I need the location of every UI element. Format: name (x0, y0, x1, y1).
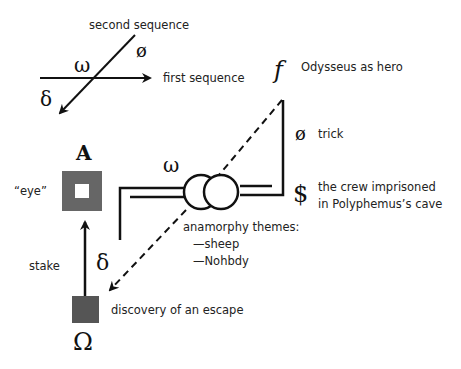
second-sequence-label: second sequence (89, 18, 189, 32)
crew-label-line1: the crew imprisoned (318, 180, 436, 194)
f-symbol: f (272, 56, 287, 84)
legend: second sequence first sequence ω δ ø (40, 18, 245, 113)
anamorphy-item-sheep: —sheep (193, 237, 239, 251)
right-circle (204, 175, 238, 209)
center-labels: ω anamorphy themes: —sheep —Nohbdy (163, 153, 299, 268)
delta-symbol: δ (40, 87, 52, 111)
trick-label: trick (318, 127, 344, 141)
null-symbol-right: ø (295, 123, 306, 144)
first-sequence-label: first sequence (163, 71, 245, 85)
Omega-symbol: Ω (73, 328, 93, 356)
omega-small-center: ω (163, 153, 179, 177)
escape-square (72, 296, 99, 323)
dashed-line-upper (219, 100, 282, 175)
lacanian-diagram: second sequence first sequence ω δ ø f O… (0, 0, 461, 369)
escape-label: discovery of an escape (111, 303, 243, 317)
omega-small-symbol: ω (74, 53, 90, 77)
f-label: Odysseus as hero (301, 60, 403, 74)
null-symbol: ø (136, 40, 147, 61)
anamorphy-item-nohbdy: —Nohbdy (193, 254, 249, 268)
dashed-arrow-to-escape (110, 210, 186, 290)
stake-label: stake (29, 259, 60, 273)
right-structure: f Odysseus as hero ø trick $ the crew im… (110, 56, 442, 290)
crew-label-line2: in Polyphemus’s cave (318, 197, 442, 211)
A-symbol: A (75, 141, 92, 165)
second-sequence-arrow (60, 35, 135, 113)
eye-label: “eye” (14, 184, 47, 198)
eye-square-hole (75, 184, 89, 198)
delta-symbol-left: δ (96, 250, 109, 275)
anamorphy-title: anamorphy themes: (183, 220, 299, 234)
dollar-symbol: $ (293, 180, 308, 208)
